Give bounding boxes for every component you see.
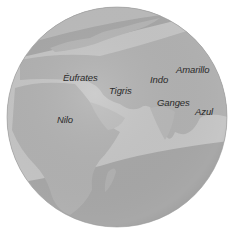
river-label-indo: Indo (150, 74, 168, 85)
river-label-tigris: Tigris (109, 85, 132, 96)
river-label-azul: Azul (195, 106, 213, 117)
river-label-ganges: Ganges (157, 97, 190, 108)
river-label-amarillo: Amarillo (176, 64, 210, 75)
river-label-nilo: Nilo (57, 114, 73, 125)
globe-map (0, 0, 237, 235)
river-label-eufrates: Éufrates (63, 72, 98, 83)
